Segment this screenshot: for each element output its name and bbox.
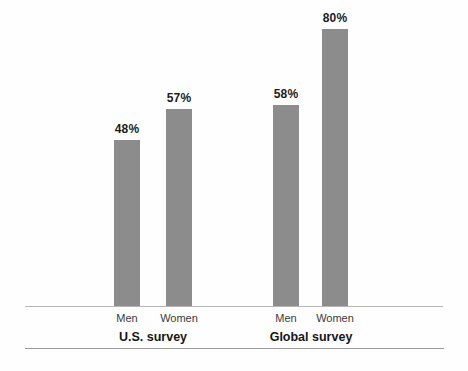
baseline-axis (25, 306, 443, 307)
bottom-rule (25, 348, 444, 349)
plot-area: 48%57%58%80% (0, 0, 468, 306)
category-label-us-women: Women (149, 312, 209, 324)
bar-2: 58% (273, 105, 299, 306)
bar-value-label-3: 80% (323, 11, 348, 25)
group-label-us-survey: U.S. survey (83, 330, 223, 344)
bar-0: 48% (114, 140, 140, 306)
category-label-global-women: Women (305, 312, 365, 324)
category-label-us-men: Men (97, 312, 157, 324)
bar-1: 57% (166, 109, 192, 306)
bar-chart: 48%57%58%80% Men Women Men Women U.S. su… (0, 0, 468, 371)
group-label-global-survey: Global survey (241, 330, 381, 344)
bar-value-label-0: 48% (115, 122, 140, 136)
bar-value-label-1: 57% (167, 91, 192, 105)
bar-3: 80% (322, 29, 348, 306)
bar-value-label-2: 58% (274, 87, 299, 101)
